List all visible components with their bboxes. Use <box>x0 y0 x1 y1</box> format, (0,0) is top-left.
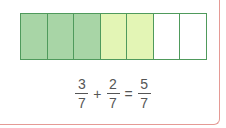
numerator: 2 <box>107 77 119 93</box>
bar-cell-6 <box>154 14 181 59</box>
fraction-bar <box>20 13 207 60</box>
bar-cell-7 <box>180 14 206 59</box>
plus-operator: + <box>93 86 101 102</box>
bar-cell-4 <box>101 14 128 59</box>
bar-cell-2 <box>48 14 75 59</box>
numerator: 5 <box>138 77 150 93</box>
denominator: 7 <box>109 94 117 110</box>
fraction-a: 3 7 <box>75 77 88 110</box>
denominator: 7 <box>78 94 86 110</box>
denominator: 7 <box>140 94 148 110</box>
bar-cell-1 <box>21 14 48 59</box>
numerator: 3 <box>76 77 88 93</box>
fraction-result: 5 7 <box>138 77 151 110</box>
fraction-equation: 3 7 + 2 7 = 5 7 <box>0 77 226 110</box>
bar-cell-5 <box>127 14 154 59</box>
equals-operator: = <box>125 86 133 102</box>
bar-cell-3 <box>74 14 101 59</box>
fraction-b: 2 7 <box>107 77 120 110</box>
